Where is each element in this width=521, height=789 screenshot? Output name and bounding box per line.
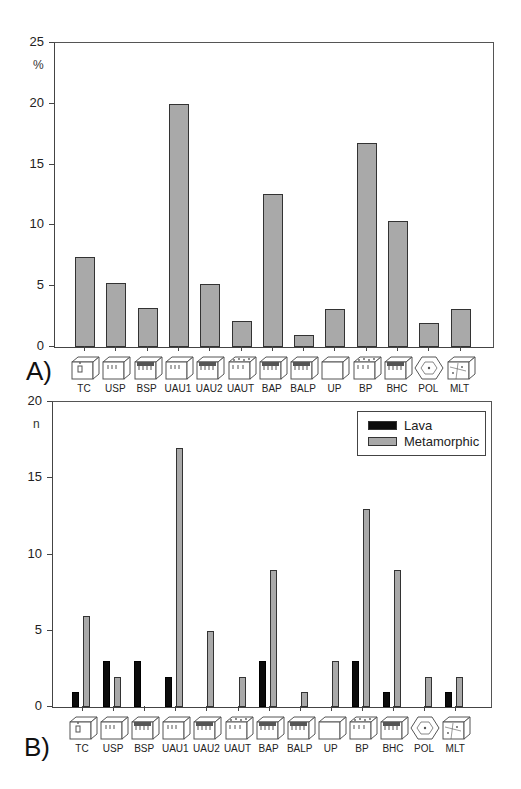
UAU2-block-icon <box>190 715 224 741</box>
y-tick <box>47 401 52 402</box>
UAUT-block-icon <box>222 715 256 741</box>
legend-item-lava: Lava <box>368 418 432 433</box>
UAU1-block-icon <box>159 715 193 741</box>
MLT-block-icon <box>439 715 473 741</box>
y-tick-label: 20 <box>12 393 42 408</box>
BSP-block-icon <box>128 715 162 741</box>
bar-lava-UAU1 <box>165 677 172 708</box>
x-tick <box>300 706 301 711</box>
x-tick <box>113 706 114 711</box>
bar-metamorphic-TC <box>83 616 90 708</box>
bar-metamorphic-UP <box>332 661 339 707</box>
x-tick <box>269 706 270 711</box>
x-tick <box>331 706 332 711</box>
x-tick <box>206 706 207 711</box>
y-tick <box>47 477 52 478</box>
USP-block-icon <box>97 715 131 741</box>
BP-block-icon <box>346 715 380 741</box>
x-tick <box>362 706 363 711</box>
legend-item-metamorphic: Metamorphic <box>368 434 479 449</box>
panel-label: B) <box>24 732 50 763</box>
bar-lava-TC <box>72 692 79 707</box>
legend-swatch-lava <box>368 421 397 430</box>
legend-label: Metamorphic <box>404 434 479 449</box>
legend-swatch-metamorphic <box>368 437 397 446</box>
POL-polygon-icon <box>408 715 442 741</box>
bar-metamorphic-BHC <box>394 570 401 707</box>
y-tick-label: 15 <box>12 469 42 484</box>
bar-lava-BAP <box>259 661 266 707</box>
x-tick <box>393 706 394 711</box>
bar-metamorphic-BP <box>363 509 370 707</box>
bar-metamorphic-BAP <box>270 570 277 707</box>
bar-metamorphic-UAU2 <box>207 631 214 707</box>
x-category-label: MLT <box>433 743 477 754</box>
bar-lava-BP <box>352 661 359 707</box>
BAP-block-icon <box>253 715 287 741</box>
x-tick <box>175 706 176 711</box>
bar-lava-BHC <box>383 692 390 707</box>
legend-label: Lava <box>404 418 432 433</box>
y-tick-label: 10 <box>12 546 42 561</box>
x-tick <box>455 706 456 711</box>
bar-metamorphic-MLT <box>456 677 463 708</box>
bar-lava-BSP <box>134 661 141 707</box>
x-tick <box>144 706 145 711</box>
BHC-block-icon <box>377 715 411 741</box>
y-tick <box>47 630 52 631</box>
bar-metamorphic-USP <box>114 677 121 708</box>
bar-metamorphic-UAU1 <box>176 448 183 707</box>
y-tick <box>47 706 52 707</box>
BALP-block-icon <box>284 715 318 741</box>
y-axis-unit: n <box>33 417 40 431</box>
bar-metamorphic-BALP <box>301 692 308 707</box>
y-tick-label: 5 <box>12 622 42 637</box>
y-tick-label: 0 <box>12 698 42 713</box>
x-tick <box>238 706 239 711</box>
bar-lava-USP <box>103 661 110 707</box>
x-tick <box>424 706 425 711</box>
UP-block-icon <box>315 715 349 741</box>
legend: Lava Metamorphic <box>357 411 486 456</box>
bar-lava-MLT <box>445 692 452 707</box>
bar-metamorphic-POL <box>425 677 432 708</box>
TC-block-icon <box>66 715 100 741</box>
x-tick <box>82 706 83 711</box>
chart-b: n Lava Metamorphic B) 05101520TCUSPBSPUA… <box>0 0 521 789</box>
y-tick <box>47 554 52 555</box>
bar-metamorphic-UAUT <box>239 677 246 708</box>
